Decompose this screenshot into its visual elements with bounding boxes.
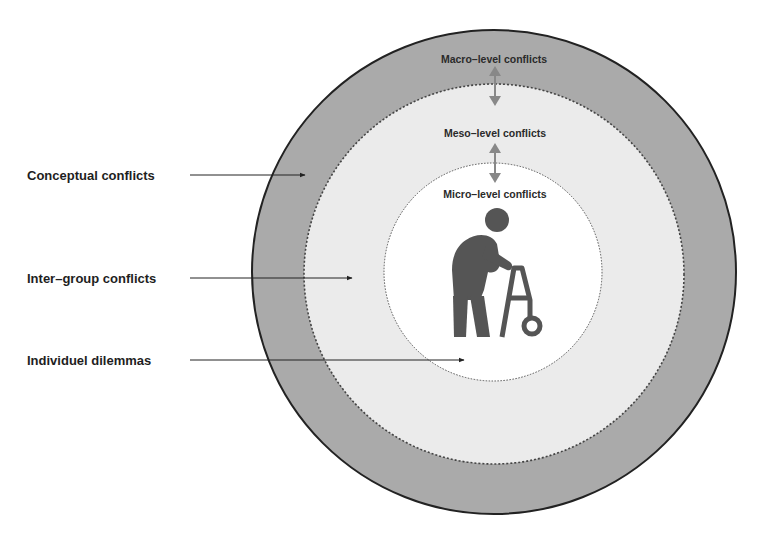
conceptual-conflicts-label: Conceptual conflicts xyxy=(27,168,155,183)
conflict-levels-diagram: Macro–level conflicts Meso–level conflic… xyxy=(0,0,758,542)
inter-group-conflicts-label: Inter–group conflicts xyxy=(27,271,156,286)
meso-level-label: Meso–level conflicts xyxy=(444,127,546,139)
micro-level-label: Micro–level conflicts xyxy=(443,188,546,200)
macro-level-label: Macro–level conflicts xyxy=(441,53,547,65)
individual-dilemmas-label: Individuel dilemmas xyxy=(27,353,151,368)
